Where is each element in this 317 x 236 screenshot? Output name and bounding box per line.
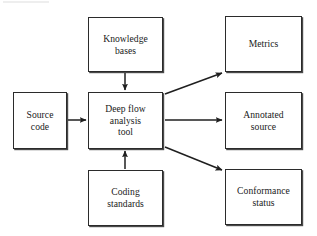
node-conformance-status-label: Conformance status	[235, 185, 292, 208]
node-deep-flow-analysis-tool-label: Deep flow analysis tool	[103, 103, 148, 138]
node-source-code[interactable]: Source code	[13, 92, 67, 149]
node-knowledge-bases-label: Knowledge bases	[101, 33, 150, 56]
node-metrics-label: Metrics	[247, 38, 281, 50]
edge-tool-to-metrics	[165, 73, 222, 94]
node-source-code-label: Source code	[25, 109, 56, 132]
node-metrics[interactable]: Metrics	[225, 16, 302, 72]
scan-artifact	[3, 1, 49, 3]
node-annotated-source-label: Annotated source	[241, 109, 285, 132]
node-coding-standards[interactable]: Coding standards	[88, 170, 163, 226]
node-annotated-source[interactable]: Annotated source	[225, 92, 302, 149]
diagram-canvas: Source code Knowledge bases Deep flow an…	[0, 0, 317, 236]
node-coding-standards-label: Coding standards	[105, 186, 146, 209]
node-deep-flow-analysis-tool[interactable]: Deep flow analysis tool	[88, 92, 163, 149]
edge-tool-to-conformance-status	[165, 147, 222, 170]
node-conformance-status[interactable]: Conformance status	[225, 169, 302, 225]
node-knowledge-bases[interactable]: Knowledge bases	[88, 17, 163, 72]
